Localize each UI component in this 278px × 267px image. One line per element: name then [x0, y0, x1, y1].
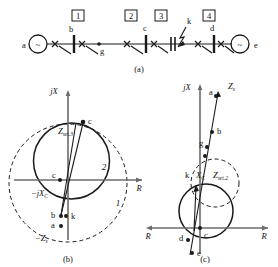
panel-c-plot: R R jX a b g c d e k Zs XC Zs	[144, 81, 268, 264]
panel-b-annotation-Zset3: Zset.3	[58, 126, 73, 137]
circuit-label-c: c	[143, 23, 147, 33]
panel-b-label-k: k	[71, 211, 76, 221]
breaker-group-2	[79, 41, 98, 54]
source-right-symbol: ~	[238, 40, 243, 50]
circuit-label-g: g	[100, 46, 105, 56]
panel-b-point-b	[59, 214, 63, 218]
panel-b-region-2-label: 2	[102, 162, 107, 172]
panel-c-label-b: b	[217, 126, 221, 136]
panel-c-axis-jX-arrow	[198, 84, 203, 90]
panel-c-point-g	[205, 145, 209, 149]
panel-c-upper-dashed-circle	[191, 159, 239, 207]
panel-b-region-1-label: 1	[116, 198, 121, 208]
panel-b-point-a	[59, 224, 63, 228]
circuit-label-k: k	[187, 16, 192, 26]
breaker-group-4	[151, 41, 168, 53]
breaker-group-5	[195, 41, 212, 53]
panel-b-plot: R jX c c b k a 2 1 Zset.3 −jXC −Zs (b)	[9, 86, 142, 264]
panel-c-axis-R-left-label: R	[144, 231, 151, 241]
breaker-group-1	[52, 41, 71, 54]
circuit-label-d: d	[210, 23, 215, 33]
source-left-symbol: ~	[36, 40, 41, 50]
caption-b: (b)	[63, 254, 73, 264]
panel-b-annotation-negZs: −Zs	[35, 233, 48, 244]
panel-b-label-c-top: c	[88, 116, 92, 126]
panel-c-axis-R-label: R	[260, 231, 267, 241]
relay-box-3-label: 3	[159, 11, 163, 21]
panel-c-label-d: d	[179, 233, 184, 243]
panel-c-point-c	[198, 226, 202, 230]
panel-a-circuit: ~ ~	[22, 10, 258, 74]
panel-c-annotation-XC: XC	[195, 170, 205, 181]
breaker-group-3	[124, 41, 143, 54]
panel-b-axis-R-label: R	[135, 183, 142, 193]
panel-b-point-k	[64, 214, 68, 218]
panel-b-point-c-origin	[58, 178, 62, 182]
panel-b-axis-jX-arrow	[66, 90, 71, 96]
panel-b-point-c-top	[81, 120, 86, 125]
panel-c-annotation-Zs: Zs	[228, 81, 235, 92]
relay-box-4-label: 4	[207, 11, 212, 21]
panel-c-point-a	[214, 94, 218, 98]
panel-c-axis-R-left-arrow	[146, 226, 152, 231]
panel-c-label-c: c	[204, 230, 208, 240]
panel-b-axis-jX-label: jX	[49, 86, 58, 96]
panel-c-axis-jX-label: jX	[182, 82, 191, 92]
figure-container: ~ ~	[0, 0, 278, 267]
panel-c-annotation-Zset2: Zset.2	[213, 170, 228, 181]
circuit-label-b: b	[69, 24, 73, 34]
figure-svg: ~ ~	[0, 0, 278, 267]
panel-b-axis-R-arrow	[136, 178, 142, 183]
panel-c-point-mid	[203, 154, 207, 158]
panel-b-label-a: a	[51, 220, 55, 230]
panel-c-label-a: a	[209, 87, 213, 97]
circuit-label-e: e	[254, 40, 258, 50]
panel-c-label-g: g	[199, 138, 204, 148]
panel-c-point-b	[210, 130, 214, 134]
panel-c-axis-R-arrow	[262, 226, 268, 231]
panel-b-label-b: b	[51, 210, 55, 220]
panel-c-label-k: k	[185, 170, 190, 180]
caption-a: (a)	[134, 64, 144, 74]
relay-box-2-label: 2	[129, 11, 133, 21]
panel-b-label-c-origin: c	[52, 170, 56, 180]
relay-box-1-label: 1	[76, 11, 80, 21]
panel-c-point-e	[190, 251, 194, 255]
panel-c-point-d	[186, 238, 190, 242]
caption-c: (c)	[200, 254, 210, 264]
circuit-label-a: a	[22, 40, 26, 50]
